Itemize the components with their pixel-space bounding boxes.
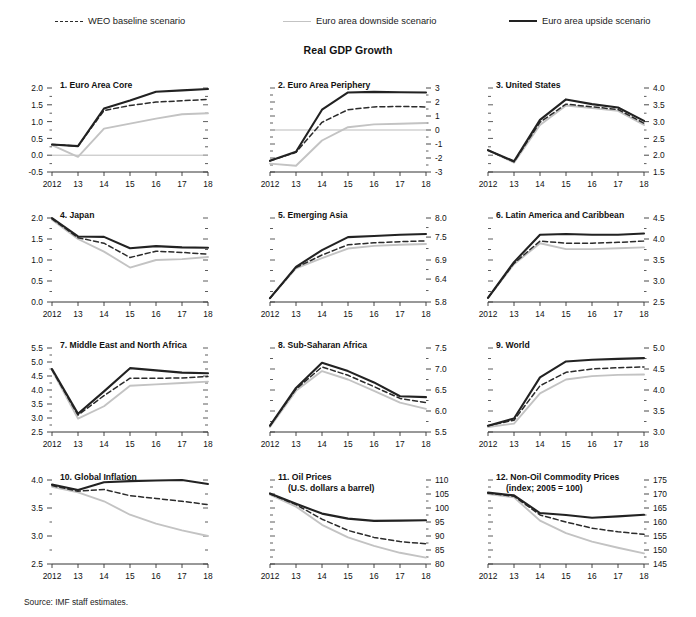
svg-text:6.5: 6.5 xyxy=(435,385,447,395)
legend-label-baseline: WEO baseline scenario xyxy=(88,16,185,26)
svg-text:165: 165 xyxy=(653,503,667,513)
svg-text:16: 16 xyxy=(369,439,379,449)
svg-text:16: 16 xyxy=(151,309,161,319)
svg-text:18: 18 xyxy=(421,439,431,449)
svg-text:16: 16 xyxy=(587,571,597,581)
svg-text:175: 175 xyxy=(653,475,667,485)
series-line-upside xyxy=(52,89,208,146)
chart-panel-2: -3-2-1012320121314151617182. Euro Area P… xyxy=(240,66,456,191)
svg-text:15: 15 xyxy=(343,571,353,581)
svg-text:1.5: 1.5 xyxy=(31,100,43,110)
svg-text:15: 15 xyxy=(125,309,135,319)
chart-panel-9: 3.03.54.04.55.020121314151617189. World xyxy=(458,326,674,451)
series-line-downside xyxy=(52,487,208,536)
svg-text:13: 13 xyxy=(291,309,301,319)
svg-text:13: 13 xyxy=(291,179,301,189)
svg-text:18: 18 xyxy=(421,571,431,581)
svg-text:4.0: 4.0 xyxy=(653,234,665,244)
svg-text:7.0: 7.0 xyxy=(435,364,447,374)
svg-text:2.0: 2.0 xyxy=(653,150,665,160)
svg-text:3.5: 3.5 xyxy=(31,399,43,409)
panel-title-6: 6. Latin America and Caribbean xyxy=(496,210,624,220)
svg-text:5.5: 5.5 xyxy=(31,343,43,353)
series-line-downside xyxy=(52,113,208,157)
svg-text:13: 13 xyxy=(291,439,301,449)
svg-text:2012: 2012 xyxy=(261,309,280,319)
svg-text:8.0: 8.0 xyxy=(435,213,447,223)
svg-text:3.0: 3.0 xyxy=(31,531,43,541)
svg-text:4.5: 4.5 xyxy=(653,213,665,223)
svg-text:18: 18 xyxy=(639,179,649,189)
chart-panel-5: 5.86.46.97.58.020121314151617185. Emergi… xyxy=(240,196,456,321)
svg-text:2.5: 2.5 xyxy=(31,559,43,569)
svg-text:17: 17 xyxy=(395,439,405,449)
chart-panel-11: 80859095100105110201213141516171811. Oil… xyxy=(240,458,456,583)
figure-title: Real GDP Growth xyxy=(0,44,696,56)
svg-text:14: 14 xyxy=(535,571,545,581)
panel-grid: -0.50.00.51.01.52.020121314151617181. Eu… xyxy=(0,66,696,586)
svg-text:2012: 2012 xyxy=(43,309,62,319)
svg-text:3.5: 3.5 xyxy=(653,255,665,265)
svg-text:15: 15 xyxy=(125,571,135,581)
series-line-upside xyxy=(52,368,208,414)
svg-text:0.5: 0.5 xyxy=(31,134,43,144)
series-line-downside xyxy=(270,371,426,427)
panel-title-9: 9. World xyxy=(496,340,530,350)
svg-text:6.9: 6.9 xyxy=(435,255,447,265)
svg-text:2.5: 2.5 xyxy=(653,297,665,307)
legend-item-downside: Euro area downside scenario xyxy=(283,16,436,26)
svg-text:15: 15 xyxy=(343,309,353,319)
source-note: Source: IMF staff estimates. xyxy=(24,597,128,607)
legend-item-baseline: WEO baseline scenario xyxy=(55,16,185,26)
svg-text:3.0: 3.0 xyxy=(653,276,665,286)
svg-text:4.5: 4.5 xyxy=(31,371,43,381)
svg-text:13: 13 xyxy=(73,309,83,319)
svg-text:17: 17 xyxy=(613,571,623,581)
panel-title-12: 12. Non-Oil Commodity Prices xyxy=(496,472,619,482)
svg-text:17: 17 xyxy=(613,179,623,189)
chart-panel-7: 2.53.03.54.04.55.05.520121314151617187. … xyxy=(22,326,238,451)
svg-text:0.0: 0.0 xyxy=(31,297,43,307)
chart-panel-1: -0.50.00.51.01.52.020121314151617181. Eu… xyxy=(22,66,238,191)
series-line-upside xyxy=(488,99,644,161)
svg-text:17: 17 xyxy=(177,179,187,189)
series-line-downside xyxy=(52,220,208,268)
svg-text:2: 2 xyxy=(435,97,440,107)
svg-text:90: 90 xyxy=(435,531,445,541)
svg-text:18: 18 xyxy=(203,309,213,319)
svg-text:6.4: 6.4 xyxy=(435,274,447,284)
svg-text:1: 1 xyxy=(435,111,440,121)
legend-swatch-dashed-icon xyxy=(55,21,83,22)
svg-text:170: 170 xyxy=(653,489,667,499)
svg-text:15: 15 xyxy=(561,571,571,581)
svg-text:13: 13 xyxy=(73,571,83,581)
svg-text:13: 13 xyxy=(509,571,519,581)
svg-text:2012: 2012 xyxy=(261,439,280,449)
panel-title-10: 10. Global Inflation xyxy=(60,472,137,482)
svg-text:3.0: 3.0 xyxy=(653,117,665,127)
svg-text:13: 13 xyxy=(73,439,83,449)
svg-text:5.0: 5.0 xyxy=(31,357,43,367)
svg-text:-0.5: -0.5 xyxy=(29,167,44,177)
svg-text:16: 16 xyxy=(151,439,161,449)
panel-subtitle-11: (U.S. dollars a barrel) xyxy=(288,483,374,493)
chart-panel-6: 2.53.03.54.04.520121314151617186. Latin … xyxy=(458,196,674,321)
svg-text:13: 13 xyxy=(509,309,519,319)
svg-text:2012: 2012 xyxy=(479,179,498,189)
svg-text:2.5: 2.5 xyxy=(653,134,665,144)
legend-label-upside: Euro area upside scenario xyxy=(542,16,651,26)
svg-text:14: 14 xyxy=(317,309,327,319)
svg-text:3.5: 3.5 xyxy=(653,100,665,110)
svg-text:5.8: 5.8 xyxy=(435,297,447,307)
svg-text:0.0: 0.0 xyxy=(31,150,43,160)
series-line-upside xyxy=(270,234,426,298)
panel-title-5: 5. Emerging Asia xyxy=(278,210,347,220)
svg-text:17: 17 xyxy=(177,571,187,581)
chart-panel-3: 1.52.02.53.03.54.020121314151617183. Uni… xyxy=(458,66,674,191)
svg-text:5.5: 5.5 xyxy=(435,427,447,437)
svg-text:2012: 2012 xyxy=(43,179,62,189)
svg-text:17: 17 xyxy=(613,309,623,319)
svg-text:14: 14 xyxy=(535,309,545,319)
series-line-upside xyxy=(270,493,426,520)
svg-text:17: 17 xyxy=(395,571,405,581)
